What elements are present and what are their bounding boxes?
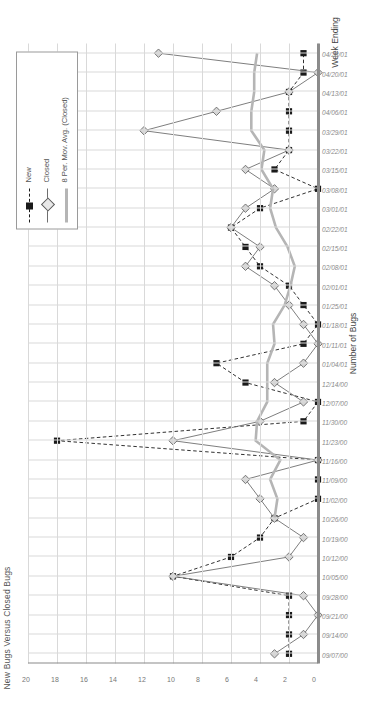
legend-marker-square (26, 202, 33, 209)
x-axis-tick-label: 04/28/01 (322, 50, 348, 57)
value-gridline (289, 43, 290, 663)
value-gridline (86, 43, 87, 663)
legend-marker-diamond (41, 197, 55, 211)
x-axis-tick-label: 02/01/01 (322, 283, 348, 290)
legend-label: 8 Per. Mov. Avg. (Closed) (60, 97, 69, 182)
x-axis-tick-label: 12/07/00 (322, 399, 348, 406)
x-axis-tick-label: 10/12/00 (322, 554, 348, 561)
x-axis-tick-label: 02/22/01 (322, 225, 348, 232)
x-axis-tick-label: 01/18/01 (322, 321, 348, 328)
legend-label: Closed (42, 158, 51, 182)
legend-item: New (21, 56, 38, 222)
x-axis-tick-label: 11/30/00 (322, 418, 347, 425)
y-axis-tick-label: 8 (196, 675, 200, 682)
series-line-0 (57, 53, 318, 654)
y-axis-tick-label: 16 (80, 675, 88, 682)
x-axis-tick-label: 03/01/01 (322, 205, 348, 212)
legend-item: Closed (39, 56, 56, 222)
x-axis-tick-label: 03/08/01 (322, 186, 348, 193)
chart-rotation-wrapper: New Bugs Versus Closed Bugs Number of Bu… (0, 0, 366, 713)
y-axis-tick-label: 14 (109, 675, 117, 682)
x-axis-tick-label: 11/23/00 (322, 438, 347, 445)
value-gridline (144, 43, 145, 663)
y-axis-tick-label: 2 (283, 675, 287, 682)
zero-baseline (318, 43, 320, 663)
chart-title: New Bugs Versus Closed Bugs (2, 0, 12, 713)
x-axis-tick-label: 04/20/01 (322, 70, 348, 77)
legend-label: New (24, 167, 33, 182)
x-axis-tick-label: 03/15/01 (322, 166, 348, 173)
x-axis-tick-label: 10/26/00 (322, 515, 348, 522)
y-axis-tick-label: 0 (312, 675, 316, 682)
chart-canvas: New Bugs Versus Closed Bugs Number of Bu… (0, 0, 366, 713)
value-gridline (115, 43, 116, 663)
x-axis-tick-label: 04/06/01 (322, 108, 348, 115)
legend-item: 8 Per. Mov. Avg. (Closed) (57, 56, 74, 222)
x-axis-tick-label: 02/15/01 (322, 244, 348, 251)
x-axis-tick-label: 09/14/00 (322, 631, 348, 638)
x-axis-tick-label: 01/11/01 (322, 341, 347, 348)
x-axis-tick-label: 09/28/00 (322, 593, 348, 600)
x-axis-tick-label: 03/22/01 (322, 147, 348, 154)
y-axis-tick-label: 18 (51, 675, 59, 682)
x-axis-tick-label: 09/07/00 (322, 651, 348, 658)
x-axis-tick-label: 11/09/00 (322, 476, 347, 483)
x-axis-tick-label: 09/21/00 (322, 612, 348, 619)
value-gridline (173, 43, 174, 663)
y-axis-title: Number of Bugs (348, 283, 358, 403)
value-gridline (202, 43, 203, 663)
y-axis-tick-label: 4 (254, 675, 258, 682)
x-axis-tick-label: 04/13/01 (322, 89, 348, 96)
y-axis-tick-label: 10 (167, 675, 175, 682)
y-axis-tick-label: 12 (138, 675, 146, 682)
x-axis-tick-label: 10/19/00 (322, 535, 348, 542)
legend-swatch (65, 188, 68, 222)
x-axis-tick-label: 12/14/00 (322, 380, 348, 387)
y-axis-line (28, 662, 318, 663)
x-axis-tick-label: 03/29/01 (322, 128, 348, 135)
value-gridline (231, 43, 232, 663)
x-axis-tick-label: 11/02/00 (322, 496, 347, 503)
x-axis-tick-label: 02/08/01 (322, 263, 348, 270)
chart-legend: NewClosed8 Per. Mov. Avg. (Closed) (16, 51, 78, 229)
x-axis-tick-label: 01/25/01 (322, 302, 348, 309)
y-axis-tick-label: 6 (225, 675, 229, 682)
x-axis-tick-label: 01/04/01 (322, 360, 348, 367)
y-axis-tick-label: 20 (22, 675, 30, 682)
x-axis-tick-label: 11/16/00 (322, 457, 347, 464)
x-axis-tick-label: 10/05/00 (322, 573, 348, 580)
value-gridline (260, 43, 261, 663)
